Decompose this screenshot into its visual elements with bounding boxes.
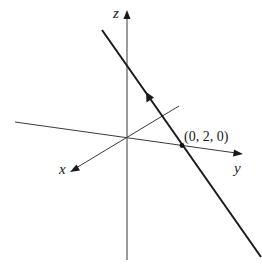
- z-axis: [124, 10, 131, 260]
- point-label: (0, 2, 0): [184, 129, 229, 145]
- line-3d-diagram: z y x (0, 2, 0): [0, 0, 262, 280]
- x-axis-label: x: [58, 161, 66, 177]
- y-axis-arrowhead: [233, 150, 243, 157]
- x-axis-arrowhead: [70, 165, 80, 173]
- y-axis-label: y: [232, 160, 241, 176]
- z-axis-arrowhead: [124, 10, 131, 19]
- z-axis-label: z: [112, 5, 119, 21]
